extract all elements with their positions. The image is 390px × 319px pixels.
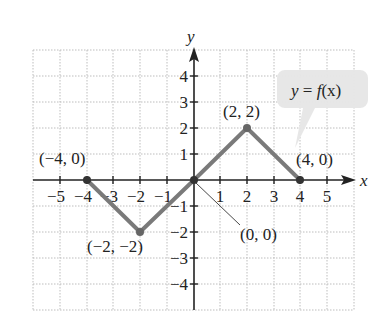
label-p3: (0, 0) — [240, 225, 277, 244]
svg-text:−4: −4 — [74, 187, 93, 206]
svg-text:−2: −2 — [170, 223, 188, 242]
function-graph: y = f(x) x y −5 −4 −3 −2 −1 1 2 3 4 5 4 … — [0, 0, 390, 319]
svg-text:1: 1 — [180, 145, 189, 164]
svg-text:5: 5 — [323, 187, 332, 206]
svg-text:−2: −2 — [127, 187, 145, 206]
callout-y: y — [289, 81, 299, 100]
svg-text:−3: −3 — [170, 249, 188, 268]
callout-bubble: y = f(x) — [277, 70, 368, 148]
y-axis-label: y — [185, 27, 195, 46]
label-p4: (2, 2) — [223, 102, 260, 121]
label-p1: (−4, 0) — [39, 149, 85, 168]
x-axis-label: x — [359, 171, 368, 190]
svg-text:4: 4 — [180, 67, 189, 86]
svg-text:2: 2 — [243, 187, 252, 206]
svg-text:−5: −5 — [47, 187, 65, 206]
svg-text:3: 3 — [180, 93, 189, 112]
x-tick-labels: −5 −4 −3 −2 −1 1 2 3 4 5 — [47, 187, 331, 206]
svg-text:3: 3 — [270, 187, 279, 206]
svg-text:−4: −4 — [170, 275, 189, 294]
svg-text:4: 4 — [296, 187, 305, 206]
label-p2: (−2, −2) — [87, 237, 143, 256]
svg-text:y = f(x): y = f(x) — [289, 81, 341, 100]
label-p5: (4, 0) — [296, 150, 333, 169]
svg-text:2: 2 — [180, 119, 189, 138]
